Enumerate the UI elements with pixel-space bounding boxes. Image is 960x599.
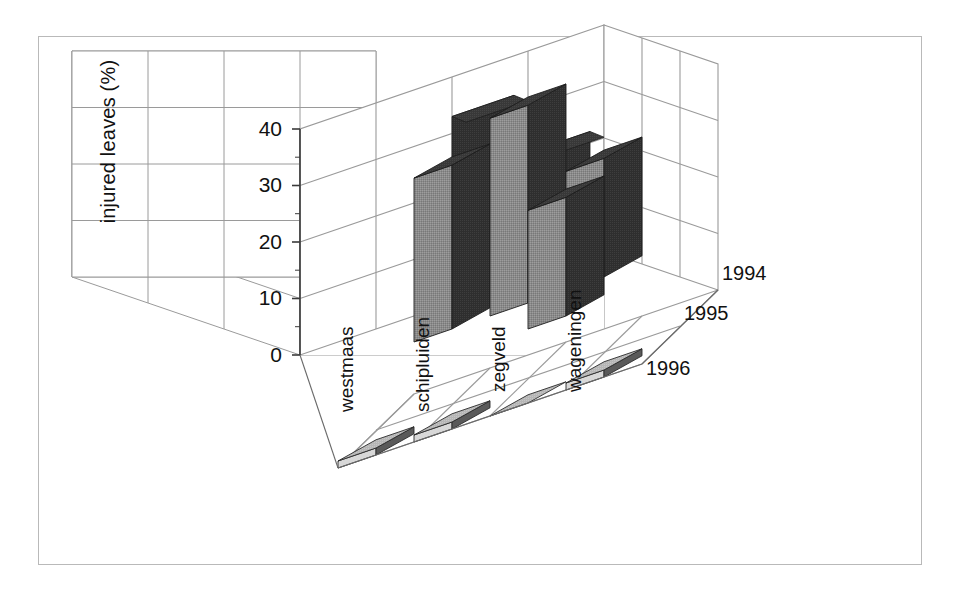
depth-label-1995: 1995: [684, 302, 729, 325]
category-label-schipluiden: schipluiden: [412, 317, 434, 412]
category-label-wageningen: wageningen: [564, 290, 586, 392]
chart-svg: [0, 0, 960, 599]
y-tick-40: 40: [236, 117, 282, 141]
y-tick-0: 0: [236, 343, 282, 367]
depth-label-1996: 1996: [646, 357, 691, 380]
category-label-zegveld: zegveld: [488, 327, 510, 393]
y-axis-label: injured leaves (%): [97, 12, 120, 272]
depth-label-1994: 1994: [722, 262, 767, 285]
chart-plot-area: injured leaves (%) 40 30 20 10 0 1994 19…: [0, 0, 960, 599]
category-label-westmaas: westmaas: [336, 326, 358, 412]
bar-schipluiden-1995: [414, 144, 490, 342]
y-tick-30: 30: [236, 173, 282, 197]
y-tick-20: 20: [236, 230, 282, 254]
y-tick-10: 10: [236, 286, 282, 310]
